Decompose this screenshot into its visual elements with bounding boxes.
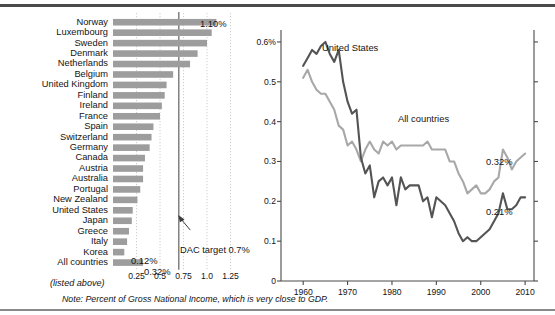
bar-label-greece: Greece [0, 227, 108, 236]
bar-label-new-zealand: New Zealand [0, 195, 108, 204]
bar-label-germany: Germany [0, 143, 108, 152]
bar-label-belgium: Belgium [0, 70, 108, 79]
bar-italy [113, 238, 127, 245]
bar-label-ireland: Ireland [0, 101, 108, 110]
line-ytick-0: 0 [234, 277, 276, 286]
bar-sweden [113, 40, 207, 47]
bar-xtick-1.0: 1.0 [197, 272, 217, 281]
bar-label-portugal: Portugal [0, 185, 108, 194]
line-ytick-0.1: 0.1 [234, 237, 276, 246]
us-endpoint-label: 0.21% [486, 207, 513, 216]
bar-label-spain: Spain [0, 122, 108, 131]
line-xtick-2000: 2000 [467, 288, 495, 297]
line-xtick-1990: 1990 [422, 288, 450, 297]
bar-ireland [113, 103, 162, 110]
bar-finland [113, 92, 165, 99]
bar-denmark [113, 50, 198, 57]
bar-label-austria: Austria [0, 164, 108, 173]
bar-subcaption: (listed above) [50, 279, 105, 288]
bar-germany [113, 144, 150, 151]
bar-austria [113, 165, 143, 172]
bar-label-all-countries: All countries [0, 258, 108, 267]
bar-label-france: France [0, 112, 108, 121]
korea-value-label: 0.12% [131, 256, 158, 265]
series-label-all-countries: All countries [398, 114, 449, 123]
bar-japan [113, 217, 132, 224]
line-ytick-0.5: 0.5 [234, 78, 276, 87]
bar-united-states [113, 207, 133, 214]
figure-note: Note: Percent of Gross National Income, … [62, 295, 328, 304]
all-countries-endpoint-label: 0.32% [486, 157, 513, 166]
bar-label-australia: Australia [0, 174, 108, 183]
bar-belgium [113, 71, 173, 78]
line-ytick-0.2: 0.2 [234, 197, 276, 206]
norway-value-label: 1.10% [200, 19, 227, 28]
line-xtick-1980: 1980 [378, 288, 406, 297]
bar-label-canada: Canada [0, 153, 108, 162]
bar-label-denmark: Denmark [0, 49, 108, 58]
bar-label-korea: Korea [0, 248, 108, 257]
bar-label-netherlands: Netherlands [0, 59, 108, 68]
bar-label-united-kingdom: United Kingdom [0, 80, 108, 89]
top-rule [0, 4, 555, 7]
bar-switzerland [113, 134, 152, 141]
bar-spain [113, 123, 153, 130]
series-label-united-states: United States [322, 43, 378, 52]
line-series-all-countries [303, 70, 525, 194]
bar-label-luxembourg: Luxembourg [0, 28, 108, 37]
bar-label-sweden: Sweden [0, 39, 108, 48]
bar-label-italy: Italy [0, 237, 108, 246]
bar-label-switzerland: Switzerland [0, 133, 108, 142]
dac-target-annotation: DAC target 0.7% [180, 246, 250, 255]
line-xtick-2010: 2010 [511, 288, 539, 297]
bar-korea [113, 249, 124, 256]
bar-portugal [113, 186, 140, 193]
bar-label-finland: Finland [0, 91, 108, 100]
bar-label-united-states: United States [0, 206, 108, 215]
line-xtick-1970: 1970 [334, 288, 362, 297]
line-ytick-0.4: 0.4 [234, 118, 276, 127]
bar-new-zealand [113, 197, 137, 204]
line-ytick-0.3: 0.3 [234, 157, 276, 166]
bar-united-kingdom [113, 82, 167, 89]
bar-france [113, 113, 160, 120]
figure-canvas: NorwayLuxembourgSwedenDenmarkNetherlands… [0, 0, 555, 315]
line-ytick-0.6: 0.6% [234, 38, 276, 47]
bar-greece [113, 228, 129, 235]
bottom-rule [0, 309, 555, 311]
bar-luxembourg [113, 29, 212, 36]
all-countries-value-label: 0.32% [144, 267, 171, 276]
bar-label-japan: Japan [0, 216, 108, 225]
bar-xtick-0.75: 0.75 [174, 272, 194, 281]
bar-canada [113, 155, 145, 162]
bar-netherlands [113, 61, 190, 68]
bar-label-norway: Norway [0, 18, 108, 27]
bar-australia [113, 176, 143, 183]
